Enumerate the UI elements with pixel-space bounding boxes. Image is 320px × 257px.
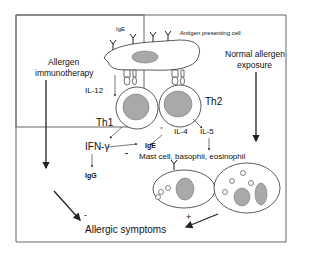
- ige-top-label: IgE: [116, 26, 125, 32]
- ige-mid-label: IgE: [145, 142, 156, 149]
- th1-nucleus: [123, 94, 149, 120]
- minus-ifn-label: -: [125, 149, 128, 158]
- normal-exposure-label-2: exposure: [237, 61, 272, 70]
- minus-symptoms-label: -: [84, 211, 87, 220]
- th1-label: Th1: [96, 118, 113, 128]
- allergic-symptoms-label: Allergic symptoms: [85, 225, 166, 235]
- th2-nucleus: [164, 91, 192, 117]
- apc-nucleus: [132, 51, 158, 63]
- allergen-immunotherapy-label-2: immunotherapy: [35, 69, 94, 78]
- normal-exposure-label-1: Normal allergen: [225, 50, 285, 59]
- th2-label: Th2: [205, 97, 222, 107]
- igg-label: IgG: [85, 172, 97, 179]
- effector-cells-label: Mast cell, basophil, eosinophil: [139, 153, 245, 161]
- il4-label: IL-4: [174, 128, 188, 136]
- eosinophil-cell: [214, 163, 280, 213]
- plus-symptoms-label: +: [186, 213, 191, 222]
- diagram-canvas: [0, 0, 320, 257]
- ifn-gamma-label: IFN-γ: [85, 142, 109, 152]
- il5-label: IL-5: [200, 128, 214, 136]
- allergen-immunotherapy-label-1: Allergen: [48, 58, 79, 67]
- apc-label: Antigen presenting cell: [180, 30, 241, 36]
- il12-label: IL-12: [85, 87, 103, 95]
